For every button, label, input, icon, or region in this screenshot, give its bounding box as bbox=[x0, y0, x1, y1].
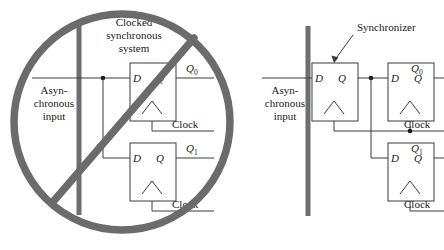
flipflop-q1-right: D Q Q1 Clock bbox=[388, 142, 444, 211]
input-label-left: Asyn- chronous input bbox=[34, 84, 74, 122]
system-title-line2: synchronous bbox=[106, 29, 162, 41]
flipflop-q0-d-pin-left: D bbox=[132, 72, 141, 84]
input-label-left-line2: chronous bbox=[34, 97, 74, 109]
right-diagram: Asyn- chronous input D Q D bbox=[262, 21, 444, 216]
clock-label-q0-right: Clock bbox=[404, 118, 431, 130]
synchronizer-annotation-label: Synchronizer bbox=[357, 21, 416, 33]
input-label-right: Asyn- chronous input bbox=[265, 84, 305, 122]
input-label-right-line1: Asyn- bbox=[272, 84, 299, 96]
boundary-bar-left bbox=[77, 25, 82, 215]
clock-label-q1-right: Clock bbox=[404, 198, 431, 210]
input-label-right-line2: chronous bbox=[265, 97, 305, 109]
system-title-line3: system bbox=[119, 42, 150, 54]
input-label-left-line3: input bbox=[43, 110, 66, 122]
input-label-left-line1: Asyn- bbox=[41, 84, 68, 96]
flipflop-synchronizer-q-pin: Q bbox=[338, 72, 346, 84]
flipflop-q1-d-pin-right: D bbox=[390, 152, 399, 164]
input-label-right-line3: input bbox=[274, 110, 297, 122]
boundary-bar-right bbox=[306, 26, 311, 216]
wire-sync-branch-down bbox=[371, 78, 388, 158]
flipflop-q1-q-pin-left: Q bbox=[156, 152, 164, 164]
flipflop-q1-d-pin-left: D bbox=[132, 152, 141, 164]
flipflop-q0-d-pin-right: D bbox=[390, 72, 399, 84]
figure-root: D Q Q0 Clock D Q Q1 Clock bbox=[0, 0, 444, 250]
output-label-q0-left: Q0 bbox=[186, 62, 198, 77]
flipflop-synchronizer-d-pin: D bbox=[314, 72, 323, 84]
left-diagram: D Q Q0 Clock D Q Q1 Clock bbox=[14, 14, 230, 230]
flipflop-q0-right: D Q Q0 Clock bbox=[388, 62, 444, 133]
flipflop-q1-left: D Q Q1 Clock bbox=[130, 142, 214, 211]
synchronizer-annotation: Synchronizer bbox=[332, 21, 416, 63]
clock-label-q0-left: Clock bbox=[172, 118, 199, 130]
output-label-q1-left: Q1 bbox=[186, 142, 198, 157]
